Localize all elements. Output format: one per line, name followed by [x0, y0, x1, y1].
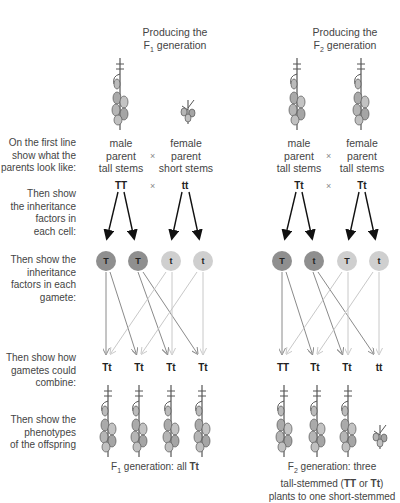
row-label-phenotypes: Then show the phenotypes of the offsprin… [0, 414, 76, 452]
f2-caption-line1: F2 generation: three [262, 460, 400, 477]
f1-offspring-plant-3 [163, 385, 179, 457]
f1-male-genotype: TT [106, 180, 136, 191]
f1-female-short-plant [181, 100, 195, 124]
f2-male-parent-label: male parent tall stems [264, 137, 334, 175]
f1-gamete-2: T [128, 251, 148, 271]
row-label-cell-l3: factors in [0, 213, 76, 226]
f1-female-l2: parent [151, 150, 221, 163]
f1-female-genotype: tt [170, 180, 200, 191]
f2-offspring-plant-3 [340, 385, 356, 457]
f2-caption-l2d: Tt [371, 478, 380, 489]
row-label-parents: On the first line show what the parents … [0, 137, 76, 175]
f2-female-tall-plant [353, 58, 369, 130]
f1-offspring-plant-2 [131, 385, 147, 457]
f2-female-parent-label: female parent tall stems [327, 137, 397, 175]
row-label-pheno-l1: Then show the [0, 414, 76, 427]
f1-gamete-4: t [193, 251, 213, 271]
row-label-factors-cell: Then show the inheritance factors in eac… [0, 188, 76, 238]
f1-caption-text: generation: all [121, 461, 189, 472]
f1-offspring-genotype-4: Tt [188, 362, 218, 373]
row-label-gamete-l1: Then show the [0, 254, 76, 267]
row-label-parents-l2: show what the [0, 150, 76, 163]
f2-caption-l2a: tall-stemmed ( [281, 478, 344, 489]
f1-female-parent-label: female parent short stems [151, 137, 221, 175]
row-label-gamete-l4: gamete: [0, 292, 76, 305]
f2-caption: F2 generation: three tall-stemmed (TT or… [262, 460, 400, 503]
f2-caption-line3: plants to one short-stemmed [262, 490, 400, 503]
row-label-combine-l1: Then show how [0, 352, 76, 365]
row-label-gamete-l3: factors in each [0, 279, 76, 292]
f2-male-l1: male [264, 137, 334, 150]
f1-male-tall-plant [112, 58, 128, 130]
row-label-pheno-l2: phenotypes [0, 427, 76, 440]
f1-female-l1: female [151, 137, 221, 150]
row-label-cell-l1: Then show [0, 188, 76, 201]
f1-male-l3: tall stems [86, 162, 156, 175]
row-label-pheno-l3: of the offspring [0, 439, 76, 452]
f2-gamete-1: T [272, 251, 292, 271]
f2-offspring-genotype-1: TT [268, 362, 298, 373]
f1-male-l2: parent [86, 150, 156, 163]
f2-caption-l2b: TT [344, 478, 356, 489]
f2-female-l1: female [327, 137, 397, 150]
f2-offspring-genotype-3: Tt [332, 362, 362, 373]
f1-offspring-genotype-2: Tt [124, 362, 154, 373]
f1-gamete-3: t [161, 251, 181, 271]
row-label-gamete-l2: inheritance [0, 267, 76, 280]
f2-offspring-genotype-2: Tt [300, 362, 330, 373]
f2-offspring-genotype-4: tt [364, 362, 394, 373]
f2-gamete-2: t [304, 251, 324, 271]
f2-caption-l1: generation: three [298, 461, 376, 472]
row-label-cell-l2: the inheritance [0, 201, 76, 214]
f1-offspring-plant-1 [100, 385, 116, 457]
row-label-combine: Then show how gametes could combine: [0, 352, 76, 390]
row-label-factors-gamete: Then show the inheritance factors in eac… [0, 254, 76, 304]
row-label-combine-l3: combine: [0, 377, 76, 390]
f1-genotype-cross-symbol: × [150, 181, 155, 191]
f2-gamete-3: T [337, 251, 357, 271]
row-label-combine-l2: gametes could [0, 365, 76, 378]
f2-female-l3: tall stems [327, 162, 397, 175]
f1-gamete-1: T [96, 251, 116, 271]
f2-offspring-plant-2 [309, 385, 325, 457]
row-label-parents-l3: parents look like: [0, 162, 76, 175]
f2-gamete-4: t [369, 251, 389, 271]
f2-female-l2: parent [327, 150, 397, 163]
f2-caption-l2e: ) [380, 478, 383, 489]
f1-female-l3: short stems [151, 162, 221, 175]
f1-offspring-genotype-1: Tt [92, 362, 122, 373]
f2-male-genotype: Tt [284, 180, 314, 191]
f2-male-l3: tall stems [264, 162, 334, 175]
row-label-cell-l4: each cell: [0, 226, 76, 239]
f1-offspring-genotype-3: Tt [156, 362, 186, 373]
f2-female-genotype: Tt [347, 180, 377, 191]
f1-caption: F1 generation: all Tt [90, 460, 220, 477]
f1-male-parent-label: male parent tall stems [86, 137, 156, 175]
f2-caption-line2: tall-stemmed (TT or Tt) [262, 477, 400, 490]
f2-genotype-cross-symbol: × [326, 181, 331, 191]
f2-caption-l2c: or [356, 478, 370, 489]
f2-offspring-plant-1 [276, 385, 292, 457]
f1-male-l1: male [86, 137, 156, 150]
f2-male-l2: parent [264, 150, 334, 163]
row-label-parents-l1: On the first line [0, 137, 76, 150]
f2-offspring-short-plant [373, 425, 387, 449]
f1-offspring-plant-4 [194, 385, 210, 457]
f2-male-tall-plant [289, 58, 305, 130]
f1-caption-bold: Tt [189, 461, 198, 472]
